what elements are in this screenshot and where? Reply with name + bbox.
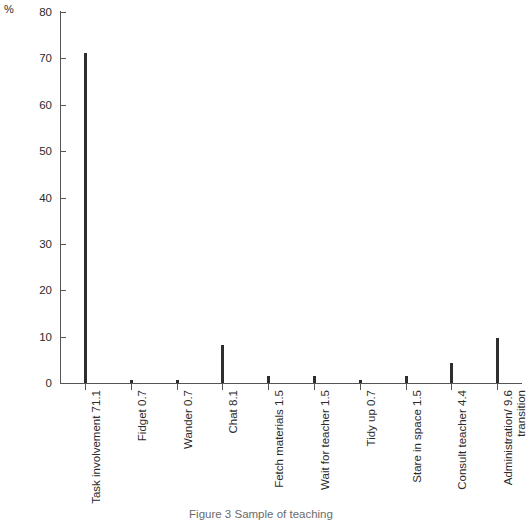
y-axis-tick xyxy=(60,244,66,245)
bar xyxy=(176,380,179,383)
y-axis-tick xyxy=(60,383,66,384)
x-axis-tick xyxy=(451,384,452,390)
y-axis-tick xyxy=(60,12,66,13)
category-label-name: Task involvement 71.1 xyxy=(90,390,102,504)
category-label-line2: transition xyxy=(515,390,528,485)
y-axis-tick xyxy=(60,151,66,152)
x-axis-tick xyxy=(85,384,86,390)
category-label-name: Wait for teacher 1.5 xyxy=(319,390,331,490)
x-axis-tick xyxy=(268,384,269,390)
y-axis-tick xyxy=(60,290,66,291)
bar xyxy=(130,380,133,383)
y-axis-tick xyxy=(60,198,66,199)
y-axis-tick-label: 40 xyxy=(18,192,52,204)
category-label: Fetch materials 1.5 xyxy=(273,390,286,488)
category-label-name: Chat 8.1 xyxy=(227,390,239,433)
x-axis-line xyxy=(60,383,522,384)
figure-caption: Figure 3 Sample of teaching xyxy=(0,508,522,521)
category-label: Consult teacher 4.4 xyxy=(456,390,469,490)
category-label: Administration/ 9.6transition xyxy=(502,390,528,485)
category-label-name: Stare in space 1.5 xyxy=(411,390,423,483)
bar xyxy=(359,380,362,383)
y-axis-tick-label: 70 xyxy=(18,52,52,64)
y-axis-tick-label: 30 xyxy=(18,238,52,250)
category-label-name: Tidy up 0.7 xyxy=(365,390,377,446)
y-axis-tick xyxy=(60,337,66,338)
category-label: Chat 8.1 xyxy=(227,390,240,433)
x-axis-tick xyxy=(177,384,178,390)
y-axis-unit-label: % xyxy=(4,3,14,15)
y-axis-tick-label: 50 xyxy=(18,145,52,157)
category-label-name: Fetch materials 1.5 xyxy=(273,390,285,488)
y-axis-tick-label: 0 xyxy=(18,377,52,389)
category-label-name: Wander 0.7 xyxy=(182,390,194,449)
y-axis-tick-label: 10 xyxy=(18,331,52,343)
category-label-name: Fidget 0.7 xyxy=(136,390,148,441)
y-axis-tick-label: 80 xyxy=(18,6,52,18)
x-axis-tick xyxy=(406,384,407,390)
y-axis-tick xyxy=(60,105,66,106)
bar xyxy=(450,363,453,383)
bar xyxy=(313,376,316,383)
x-axis-tick xyxy=(360,384,361,390)
category-label: Wander 0.7 xyxy=(182,390,195,449)
bar xyxy=(267,376,270,383)
category-label: Stare in space 1.5 xyxy=(411,390,424,483)
x-axis-tick xyxy=(222,384,223,390)
bar xyxy=(496,338,499,383)
bar xyxy=(84,53,87,383)
category-label: Fidget 0.7 xyxy=(136,390,149,441)
category-label: Task involvement 71.1 xyxy=(90,390,103,504)
category-label: Tidy up 0.7 xyxy=(365,390,378,446)
x-axis-tick xyxy=(314,384,315,390)
bar xyxy=(405,376,408,383)
y-axis-tick-label: 20 xyxy=(18,284,52,296)
x-axis-tick xyxy=(497,384,498,390)
category-label-name: Consult teacher 4.4 xyxy=(456,390,468,490)
x-axis-tick xyxy=(131,384,132,390)
category-label-name: Administration/ 9.6 xyxy=(502,390,514,485)
y-axis-tick xyxy=(60,58,66,59)
category-label: Wait for teacher 1.5 xyxy=(319,390,332,490)
y-axis-tick-label: 60 xyxy=(18,99,52,111)
bar xyxy=(221,345,224,383)
